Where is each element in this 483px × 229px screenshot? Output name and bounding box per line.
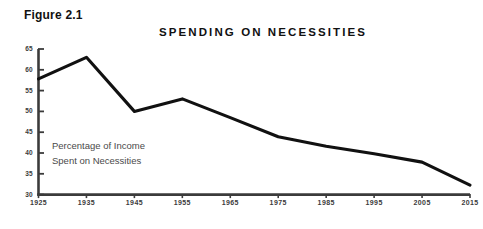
- annotation-line-1: Percentage of Income: [52, 138, 145, 153]
- y-axis-tick-label: 65: [11, 45, 33, 52]
- y-axis-tick-label: 45: [11, 128, 33, 135]
- x-axis-tick-label: 2005: [402, 199, 442, 206]
- chart-axes: [37, 49, 470, 196]
- x-axis-tick-label: 1985: [306, 199, 346, 206]
- x-axis-tick-label: 1935: [66, 199, 106, 206]
- x-axis-tick-label: 1955: [162, 199, 202, 206]
- x-axis-tick-label: 1995: [354, 199, 394, 206]
- y-axis-tick-label: 35: [11, 170, 33, 177]
- y-axis-tick-label: 60: [11, 66, 33, 73]
- y-axis-tick-label: 50: [11, 107, 33, 114]
- series-annotation: Percentage of Income Spent on Necessitie…: [52, 138, 145, 168]
- y-axis-tick-label: 30: [11, 191, 33, 198]
- y-axis-tick-label: 40: [11, 149, 33, 156]
- y-axis-tick-label: 55: [11, 87, 33, 94]
- x-axis-tick-label: 1965: [210, 199, 250, 206]
- x-axis-tick-label: 1925: [19, 199, 59, 206]
- annotation-line-2: Spent on Necessities: [52, 153, 145, 168]
- x-axis-tick-label: 2015: [450, 199, 483, 206]
- x-axis-tick-label: 1975: [258, 199, 298, 206]
- x-axis-tick-label: 1945: [114, 199, 154, 206]
